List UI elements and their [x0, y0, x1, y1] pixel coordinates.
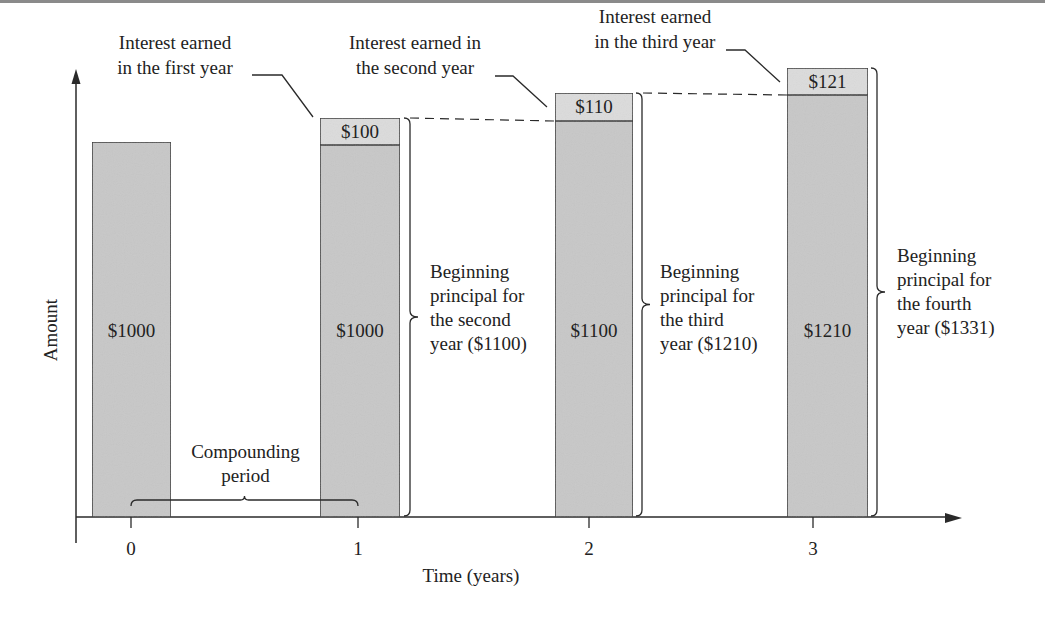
principal-callout: Beginningprincipal forthe thirdyear ($12… — [660, 261, 758, 355]
principal-value: $1000 — [108, 320, 156, 341]
principal-callout-line: Beginning — [660, 261, 740, 282]
dashed-guide — [643, 93, 787, 95]
principal-callout-line: the fourth — [897, 293, 972, 314]
principal-segment — [555, 121, 633, 517]
principal-callout-line: year ($1100) — [430, 333, 527, 355]
dashed-guide — [410, 118, 555, 121]
interest-callout: Interest earnedin the first year — [117, 32, 313, 117]
principal-value: $1100 — [571, 320, 618, 341]
interest-callout: Interest earned inthe second year — [349, 32, 547, 107]
principal-callout: Beginningprincipal forthe fourthyear ($1… — [897, 245, 995, 339]
callout-line-1: Interest earned — [119, 32, 232, 53]
principal-value: $1210 — [804, 320, 852, 341]
principal-callout: Beginningprincipal forthe secondyear ($1… — [430, 261, 527, 355]
principal-callout-line: year ($1210) — [660, 333, 758, 355]
callout-line-2: in the first year — [117, 57, 233, 78]
principal-callout-line: principal for — [430, 285, 525, 306]
leader-line — [726, 50, 780, 82]
principal-callout-line: the third — [660, 309, 724, 330]
bar-year-1: $100$1000 — [320, 118, 400, 517]
x-tick-label: 3 — [808, 538, 818, 559]
compounding-label-1: Compounding — [191, 441, 300, 462]
principal-callout-line: principal for — [897, 269, 992, 290]
bar-year-0: $1000 — [92, 142, 171, 517]
principal-callout-line: year ($1331) — [897, 317, 995, 339]
principal-callout-line: principal for — [660, 285, 755, 306]
interest-callouts: Interest earnedin the first yearInterest… — [117, 6, 780, 117]
x-tick-label: 2 — [584, 538, 594, 559]
compounding-label-2: period — [221, 465, 270, 486]
principal-value: $1000 — [336, 320, 384, 341]
leader-line — [495, 76, 547, 107]
callout-line-1: Interest earned — [599, 6, 712, 27]
principal-callouts: Beginningprincipal forthe secondyear ($1… — [430, 245, 995, 355]
curly-brace — [636, 93, 650, 516]
interest-value: $100 — [341, 121, 379, 142]
curly-brace — [404, 118, 418, 516]
interest-value: $110 — [575, 96, 612, 117]
x-axis-ticks: 0123 — [126, 517, 818, 559]
principal-callout-line: Beginning — [430, 261, 510, 282]
interest-value: $121 — [809, 71, 847, 92]
principal-callout-line: the second — [430, 309, 511, 330]
curly-brace — [871, 68, 885, 516]
callout-line-2: in the third year — [595, 31, 716, 52]
compound-interest-figure: 0123 $1000$100$1000$110$1100$121$1210 In… — [0, 0, 1045, 622]
callout-line-1: Interest earned in — [349, 32, 481, 53]
bar-year-2: $110$1100 — [555, 93, 633, 517]
y-axis-label: Amount — [40, 298, 61, 361]
interest-callout: Interest earnedin the third year — [595, 6, 780, 82]
x-tick-label: 1 — [353, 538, 363, 559]
callout-line-2: the second year — [356, 57, 475, 78]
leader-line — [252, 75, 313, 117]
principal-segment — [787, 95, 868, 517]
principal-callout-line: Beginning — [897, 245, 977, 266]
bar-year-3: $121$1210 — [787, 68, 868, 517]
x-axis-arrow-icon — [945, 513, 962, 523]
y-axis-arrow-icon — [72, 69, 81, 84]
x-tick-label: 0 — [126, 538, 136, 559]
x-axis-label: Time (years) — [423, 565, 520, 587]
